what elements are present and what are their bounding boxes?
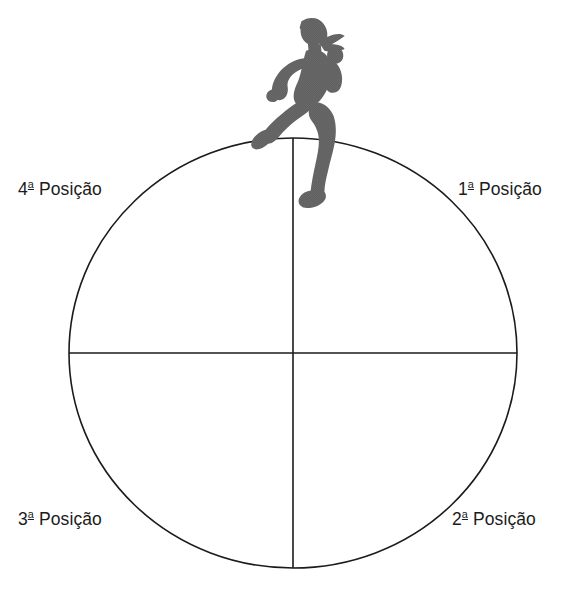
running-person-icon bbox=[251, 18, 344, 208]
label-position-3-text: Posição bbox=[39, 509, 102, 529]
label-position-4-suffix: a bbox=[28, 178, 34, 190]
label-position-2-text: Posição bbox=[473, 509, 536, 529]
positions-circle-diagram bbox=[0, 0, 575, 590]
label-position-1-ordinal: 1 bbox=[458, 179, 468, 199]
label-position-4-ordinal: 4 bbox=[18, 179, 28, 199]
label-position-2-suffix: a bbox=[462, 508, 468, 520]
label-position-2-ordinal: 2 bbox=[452, 509, 462, 529]
label-position-2: 2a Posição bbox=[452, 508, 536, 529]
label-position-1: 1a Posição bbox=[458, 178, 542, 199]
label-position-1-text: Posição bbox=[479, 179, 542, 199]
diagram-canvas: 1a Posição 2a Posição 3a Posição 4a Posi… bbox=[0, 0, 575, 590]
label-position-3-suffix: a bbox=[28, 508, 34, 520]
label-position-4-text: Posição bbox=[39, 179, 102, 199]
label-position-1-suffix: a bbox=[468, 178, 474, 190]
label-position-3: 3a Posição bbox=[18, 508, 102, 529]
label-position-4: 4a Posição bbox=[18, 178, 102, 199]
label-position-3-ordinal: 3 bbox=[18, 509, 28, 529]
